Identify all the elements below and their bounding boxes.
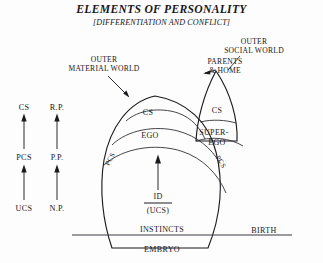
label-superego-line2: EGO [208, 138, 226, 147]
page-title: ELEMENTS OF PERSONALITY [75, 3, 247, 16]
axis-arrow-lower-right [54, 165, 59, 201]
axis-arrow-lower-left [21, 165, 26, 201]
label-id-ucs: (UCS) [147, 206, 170, 215]
axis-left-cs: CS [19, 103, 30, 112]
label-superego-cs: CS [212, 106, 223, 115]
callout-outer-social-world-line1: OUTER [241, 37, 268, 46]
superego-cs-divider [201, 120, 237, 123]
label-ego: EGO [141, 131, 159, 140]
axis-arrow-upper-left [21, 114, 26, 150]
axis-left-pcs: PCS [16, 153, 32, 162]
label-instincts: INSTINCTS [140, 225, 184, 234]
callout-outer-material-world-line2: MATERIAL WORLD [68, 64, 139, 73]
axis-arrow-upper-right [54, 114, 59, 150]
callout-outer-material-world-line1: OUTER [91, 55, 118, 64]
callout-outer-social-world-line2: SOCIAL WORLD [224, 46, 284, 55]
axis-left-np: N.P. [50, 204, 65, 213]
axis-left-rp: R.P. [50, 103, 64, 112]
ego-id-divider [104, 147, 226, 193]
ego-cs-divider [126, 110, 205, 139]
axis-left-pp: P.P. [51, 153, 64, 162]
label-embryo: EMBRYO [144, 245, 180, 254]
callout-parents-home-line1: PARENTS [208, 57, 243, 66]
label-id: ID [153, 192, 162, 201]
arrow-id-to-ego [155, 155, 161, 191]
arrow-outer-material-world [108, 76, 129, 97]
personality-diagram: ELEMENTS OF PERSONALITY [DIFFERENTIATION… [0, 0, 323, 263]
label-birth: BIRTH [251, 226, 276, 235]
page-subtitle: [DIFFERENTIATION AND CONFLICT] [93, 18, 230, 27]
label-ego-pcs-right: PCS [214, 154, 228, 170]
axis-left-ucs: UCS [16, 204, 33, 213]
label-ego-cs: CS [143, 108, 154, 117]
